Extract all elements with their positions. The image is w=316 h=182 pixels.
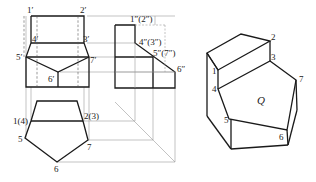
- front-view: 1′ 2′ 3′ 4′ 5′ 6′ 7′: [16, 5, 97, 87]
- label-1-2-double-prime: 1″(2″): [130, 14, 153, 24]
- label-6: 6: [54, 164, 59, 174]
- label-2-prime: 2′: [80, 5, 87, 15]
- label-5-7-double-prime: 5″(7″): [153, 48, 176, 58]
- iso-label-1: 1: [212, 66, 217, 76]
- label-6-prime: 6′: [48, 74, 55, 84]
- face-q-label: Q: [257, 94, 265, 106]
- isometric-view: 1 2 3 4 5 6 7 Q: [207, 32, 304, 149]
- label-6-double-prime: 6″: [177, 64, 186, 74]
- iso-label-3: 3: [271, 52, 276, 62]
- label-7-prime: 7′: [90, 55, 97, 65]
- label-1-4: 1(4): [13, 116, 28, 126]
- iso-label-4: 4: [212, 84, 217, 94]
- label-7: 7: [87, 142, 92, 152]
- label-4-prime: 4′: [32, 34, 39, 44]
- label-5: 5: [18, 134, 23, 144]
- orthographic-projection-diagram: 1′ 2′ 3′ 4′ 5′ 6′ 7′ 1″(2″) 4″(3″) 5″(7″…: [0, 0, 316, 182]
- label-1-prime: 1′: [27, 5, 34, 15]
- iso-label-6: 6: [279, 132, 284, 142]
- iso-label-5: 5: [224, 115, 229, 125]
- label-5-prime: 5′: [16, 52, 23, 62]
- label-2-3: 2(3): [84, 111, 99, 121]
- iso-label-2: 2: [271, 32, 276, 42]
- label-4-3-double-prime: 4″(3″): [139, 37, 162, 47]
- side-view: 1″(2″) 4″(3″) 5″(7″) 6″: [115, 14, 186, 88]
- label-3-prime: 3′: [83, 34, 90, 44]
- iso-label-7: 7: [299, 74, 304, 84]
